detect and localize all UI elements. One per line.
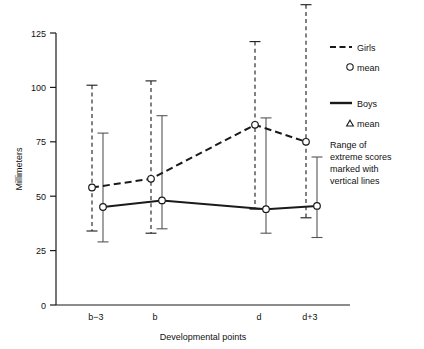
y-tick-label-75: 75 xyxy=(36,137,46,147)
annotation-line-3: marked with xyxy=(330,164,379,174)
boys-mean-marker-d xyxy=(263,206,270,213)
x-tick-label-d: d xyxy=(256,312,261,322)
legend-label-boys-mean: mean xyxy=(357,119,380,129)
legend-circle-marker-icon xyxy=(347,64,353,70)
x-tick-label-b: b xyxy=(152,312,157,322)
x-tick-label-d-plus-3: d+3 xyxy=(302,312,317,322)
annotation-line-1: Range of xyxy=(330,140,367,150)
girls-mean-marker-b-minus-3 xyxy=(89,184,96,191)
y-axis-title: Millimeters xyxy=(14,147,24,191)
x-axis-title: Developmental points xyxy=(160,332,247,342)
girls-mean-marker-d-plus-3 xyxy=(303,139,310,146)
legend-label-boys: Boys xyxy=(357,99,378,109)
boys-mean-marker-b xyxy=(159,197,166,204)
annotation-line-4: vertical lines xyxy=(330,176,380,186)
y-tick-label-50: 50 xyxy=(36,192,46,202)
girls-mean-marker-b xyxy=(148,176,155,183)
y-tick-label-125: 125 xyxy=(31,29,46,39)
boys-mean-marker-b-minus-3 xyxy=(100,204,107,211)
boys-mean-marker-d-plus-3 xyxy=(314,203,321,210)
x-tick-label-b-minus-3: b−3 xyxy=(88,312,103,322)
y-tick-label-25: 25 xyxy=(36,246,46,256)
legend-label-girls-mean: mean xyxy=(357,63,380,73)
girls-mean-marker-d xyxy=(252,122,259,129)
y-tick-label-0: 0 xyxy=(41,301,46,311)
chart-svg: 125 100 75 50 25 0 Millimeters b−3 b d d… xyxy=(0,0,424,349)
chart-figure: 125 100 75 50 25 0 Millimeters b−3 b d d… xyxy=(0,0,424,349)
legend-label-girls: Girls xyxy=(357,43,376,53)
y-tick-label-100: 100 xyxy=(31,83,46,93)
annotation-line-2: extreme scores xyxy=(330,152,392,162)
